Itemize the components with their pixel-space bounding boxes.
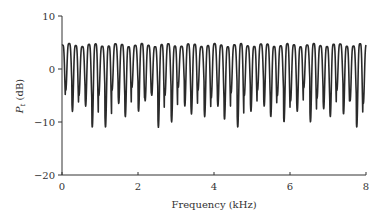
chart: 100−10−20 02468 Frequency (kHz) Pt (dB): [0, 0, 384, 221]
y-tick-label: 0: [49, 64, 55, 75]
x-tick-label: 4: [211, 181, 217, 192]
x-tick-label: 2: [135, 181, 141, 192]
x-tick-label: 0: [59, 181, 65, 192]
data-series-pt: [62, 44, 366, 128]
y-axis-title-unit: (dB): [14, 79, 25, 104]
plot-area: [62, 44, 366, 128]
y-tick-label: −20: [34, 170, 55, 181]
x-tick-label: 8: [363, 181, 369, 192]
y-tick-label: 10: [42, 11, 55, 22]
y-axis-title: Pt (dB): [14, 79, 27, 114]
x-tick-label: 6: [287, 181, 293, 192]
y-tick-label: −10: [34, 117, 55, 128]
x-axis-title: Frequency (kHz): [171, 199, 256, 210]
y-axis-ticks: 100−10−20: [34, 11, 62, 181]
